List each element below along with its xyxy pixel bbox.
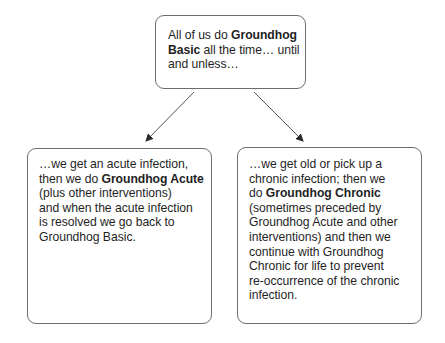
text-line: and when the acute infection — [39, 201, 204, 216]
arrow-right — [254, 92, 303, 141]
text-line: interventions) and then we — [249, 230, 399, 245]
text-line: Chronic for life to prevent — [249, 259, 399, 274]
left-box-text: …we get an acute infection, then we do G… — [39, 157, 204, 245]
text-line: do Groundhog Chronic — [249, 186, 399, 201]
text-line: Groundhog Acute and other — [249, 215, 399, 230]
text-line: infection. — [249, 288, 399, 303]
text-line: continue with Groundhog — [249, 245, 399, 260]
right-box-text: …we get old or pick up a chronic infecti… — [249, 157, 399, 303]
text-line: is resolved we go back to — [39, 215, 204, 230]
text-line: (sometimes preceded by — [249, 201, 399, 216]
text-line: then we do Groundhog Acute — [39, 172, 204, 187]
text-line: re-occurrence of the chronic — [249, 274, 399, 289]
text-line: …we get an acute infection, — [39, 157, 204, 172]
text-line: …we get old or pick up a — [249, 157, 399, 172]
text-line: (plus other interventions) — [39, 186, 204, 201]
arrow-left — [146, 92, 194, 141]
text-line: chronic infection; then we — [249, 172, 399, 187]
text-line: Groundhog Basic. — [39, 230, 204, 245]
